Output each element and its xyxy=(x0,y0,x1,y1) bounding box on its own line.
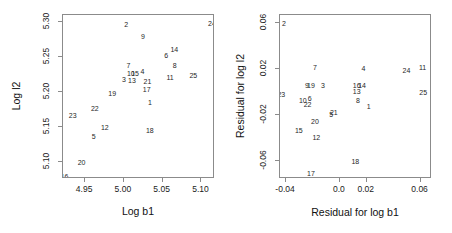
y-axis-tick-label: 5.15 xyxy=(42,118,51,135)
data-point-label: 18 xyxy=(351,157,359,164)
x-axis-tick-label: 0.0 xyxy=(333,185,345,194)
y-axis-tick xyxy=(275,68,279,69)
x-axis-tick xyxy=(162,178,163,182)
data-points-layer-right: 2112447919316141325231062281521201512181… xyxy=(280,15,430,177)
x-axis-tick xyxy=(420,178,421,182)
data-point-label: 11 xyxy=(166,74,173,81)
x-axis-title-left: Log b1 xyxy=(122,205,154,217)
x-axis-tick xyxy=(366,178,367,182)
data-point-label: 21 xyxy=(330,109,338,116)
figure-container: 1620523221218191173132110151125478614922… xyxy=(0,0,452,233)
data-point-label: 8 xyxy=(173,62,177,69)
data-points-layer-left: 1620523221218191173132110151125478614922… xyxy=(63,15,213,177)
data-point-label: 25 xyxy=(419,89,427,96)
data-point-label: 20 xyxy=(78,159,86,166)
x-axis-tick-label: 0.02 xyxy=(357,185,374,194)
x-axis-tick xyxy=(285,178,286,182)
data-point-label: 17 xyxy=(143,85,151,92)
data-point-label: 25 xyxy=(189,71,197,78)
plot-frame-right: 2112447919316141325231062281521201512181… xyxy=(279,14,431,178)
y-axis-tick-label: 5.25 xyxy=(42,47,51,64)
y-axis-tick-label: -0.02 xyxy=(259,104,268,123)
data-point-label: 2 xyxy=(282,19,286,26)
y-axis-title-left: Log l2 xyxy=(10,82,22,111)
y-axis-tick xyxy=(58,161,62,162)
y-axis-title-right: Residual for log l2 xyxy=(234,54,246,138)
data-point-label: 24 xyxy=(403,66,411,73)
data-point-label: 1 xyxy=(148,98,152,105)
data-point-label: 8 xyxy=(356,97,360,104)
plot-frame-left: 1620523221218191173132110151125478614922… xyxy=(62,14,214,178)
data-point-label: 14 xyxy=(170,46,178,53)
data-point-label: 23 xyxy=(280,90,285,97)
data-point-label: 17 xyxy=(307,170,315,177)
y-axis-tick-label: 0.02 xyxy=(259,59,268,76)
x-axis-tick xyxy=(84,178,85,182)
x-axis-tick xyxy=(200,178,201,182)
data-point-label: 13 xyxy=(128,76,136,83)
y-axis-tick xyxy=(275,22,279,23)
y-axis-tick xyxy=(58,56,62,57)
y-axis-tick-label: 0.06 xyxy=(259,13,268,30)
x-axis-tick-label: 0.06 xyxy=(411,185,428,194)
data-point-label: 3 xyxy=(122,76,126,83)
data-point-label: 4 xyxy=(361,65,365,72)
data-point-label: 5 xyxy=(92,132,96,139)
data-point-label: 19 xyxy=(307,82,315,89)
data-point-label: 19 xyxy=(108,90,116,97)
y-axis-tick-label: -0.06 xyxy=(259,150,268,169)
x-axis-tick-label: 5.10 xyxy=(192,185,209,194)
data-point-label: 2 xyxy=(124,21,128,28)
scatter-panel-residual: 2112447919316141325231062281521201512181… xyxy=(226,0,452,233)
scatter-panel-log: 1620523221218191173132110151125478614922… xyxy=(0,0,226,233)
data-point-label: 16 xyxy=(63,173,68,177)
data-point-label: 18 xyxy=(146,126,154,133)
y-axis-tick xyxy=(275,114,279,115)
data-point-label: 15 xyxy=(131,70,139,77)
y-axis-tick-label: 5.30 xyxy=(42,12,51,29)
x-axis-tick-label: -0.04 xyxy=(275,185,294,194)
y-axis-tick xyxy=(58,126,62,127)
data-point-label: 21 xyxy=(144,77,152,84)
x-axis-tick xyxy=(339,178,340,182)
x-axis-tick-label: 4.95 xyxy=(76,185,93,194)
data-point-label: 24 xyxy=(208,19,213,26)
data-point-label: 11 xyxy=(419,63,426,70)
x-axis-title-right: Residual for log b1 xyxy=(311,206,399,218)
x-axis-tick xyxy=(123,178,124,182)
y-axis-tick xyxy=(58,21,62,22)
x-axis-tick-label: 5.00 xyxy=(115,185,132,194)
data-point-label: 22 xyxy=(91,104,99,111)
data-point-label: 4 xyxy=(141,67,145,74)
x-axis-tick-label: 5.05 xyxy=(153,185,170,194)
data-point-label: 15 xyxy=(295,127,303,134)
y-axis-tick-label: 5.20 xyxy=(42,82,51,99)
data-point-label: 9 xyxy=(141,32,145,39)
data-point-label: 12 xyxy=(101,124,109,131)
y-axis-tick xyxy=(58,91,62,92)
y-axis-tick xyxy=(275,160,279,161)
data-point-label: 6 xyxy=(164,51,168,58)
y-axis-tick-label: 5.10 xyxy=(42,153,51,170)
data-point-label: 7 xyxy=(127,62,131,69)
data-point-label: 22 xyxy=(304,100,312,107)
data-point-label: 20 xyxy=(311,117,319,124)
data-point-label: 1 xyxy=(367,103,371,110)
data-point-label: 3 xyxy=(321,82,325,89)
data-point-label: 13 xyxy=(353,87,361,94)
data-point-label: 7 xyxy=(313,63,317,70)
data-point-label: 23 xyxy=(69,112,77,119)
data-point-label: 12 xyxy=(312,133,320,140)
